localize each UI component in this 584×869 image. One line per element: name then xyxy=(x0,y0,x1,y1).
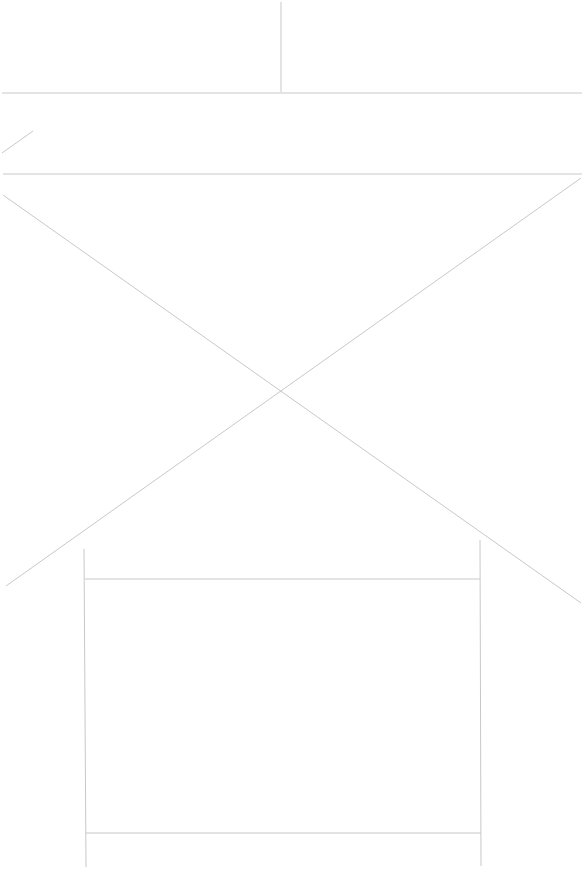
small-diagonal-mark xyxy=(2,131,33,153)
cross-diagonal-up xyxy=(6,178,581,586)
box-left-edge xyxy=(84,549,86,867)
cross-diagonal-down xyxy=(3,195,581,603)
wireframe-canvas xyxy=(0,0,584,869)
box-right-edge xyxy=(480,540,481,866)
wireframe-lines xyxy=(2,2,582,867)
